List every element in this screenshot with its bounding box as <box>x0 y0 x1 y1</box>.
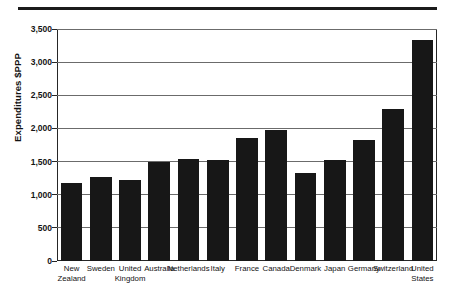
bar <box>324 160 346 261</box>
x-axis-tick-label: UnitedStates <box>398 264 448 283</box>
y-axis-tick-label: 1,000 <box>0 190 52 200</box>
y-axis-tick-label: 3,500 <box>0 24 52 34</box>
bar <box>382 109 404 261</box>
top-rule-divider <box>18 7 437 10</box>
bar <box>412 40 434 261</box>
plot-area <box>57 29 437 261</box>
x-axis-tick-label-line: United <box>398 264 448 274</box>
bar <box>295 173 317 261</box>
y-axis-tick-label: 500 <box>0 223 52 233</box>
x-axis-tick-label-line: States <box>398 274 448 284</box>
bar <box>207 160 229 261</box>
x-axis-tick-label-line: Zealand <box>47 274 97 284</box>
gridline <box>57 62 437 63</box>
bar <box>61 183 83 261</box>
gridline <box>57 128 437 129</box>
gridline <box>57 95 437 96</box>
bar <box>148 162 170 261</box>
x-axis-tick-layer: NewZealandSwedenUnitedKingdomAustraliaNe… <box>0 264 451 302</box>
y-axis-tick-label: 2,000 <box>0 123 52 133</box>
bar <box>90 177 112 261</box>
bar <box>178 159 200 261</box>
bar-chart-figure: Expenditures $PPP 05001,0001,5002,0002,5… <box>0 0 451 302</box>
y-axis-tick-label: 1,500 <box>0 157 52 167</box>
bar <box>353 140 375 261</box>
y-axis-tick-label: 2,500 <box>0 90 52 100</box>
bar <box>265 130 287 261</box>
y-axis-tick-label: 3,000 <box>0 57 52 67</box>
bar <box>119 180 141 261</box>
y-axis-title: Expenditures $PPP <box>12 33 23 163</box>
x-axis-tick-label-line: Kingdom <box>105 274 155 284</box>
bar <box>236 138 258 261</box>
gridline <box>57 29 437 30</box>
